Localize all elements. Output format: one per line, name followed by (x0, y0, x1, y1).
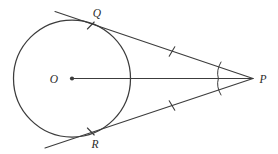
label-point-q: Q (93, 7, 102, 19)
tangent-line-through-r (45, 79, 253, 149)
congruence-tick-on-pr (169, 101, 175, 110)
label-point-o: O (50, 73, 59, 85)
label-point-r: R (90, 138, 98, 150)
geometry-figure: O Q R P (0, 0, 278, 154)
tangent-line-through-q (55, 12, 253, 79)
angle-arc-opr (218, 79, 221, 95)
geometry-canvas: O Q R P (0, 0, 278, 154)
center-point-dot (70, 76, 74, 80)
label-point-p: P (258, 73, 266, 85)
angle-arc-qpo (218, 62, 221, 78)
